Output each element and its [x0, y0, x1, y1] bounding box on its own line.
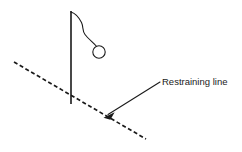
pendulum-bob-circle: [93, 46, 105, 58]
restraining-line: [14, 62, 146, 139]
leader-line: [108, 82, 160, 115]
hanging-rope: [71, 12, 96, 46]
figure-canvas: Restraining line: [0, 0, 242, 152]
restraining-line-label: Restraining line: [162, 76, 227, 87]
restraining-line-diagram: Restraining line: [0, 0, 242, 152]
